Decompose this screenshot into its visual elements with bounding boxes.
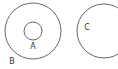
set-b-label: B (9, 57, 15, 66)
set-c-label: C (84, 23, 90, 32)
set-a-circle (24, 22, 42, 40)
venn-diagram: A B C (0, 0, 118, 69)
set-a-label: A (30, 42, 36, 51)
set-c-circle (77, 4, 118, 58)
